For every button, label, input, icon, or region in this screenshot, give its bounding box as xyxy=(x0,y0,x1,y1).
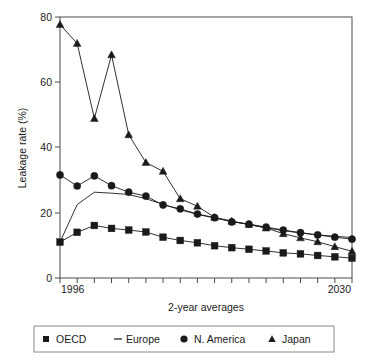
dash-marker xyxy=(114,338,122,339)
y-tick-label-80: 80 xyxy=(40,11,52,23)
data-point-circle xyxy=(194,210,201,217)
chart-figure: Leakage rate (%) 80 60 40 20 0 1996 2030… xyxy=(0,0,366,360)
data-point-square xyxy=(349,255,356,262)
data-point-square xyxy=(108,225,115,232)
data-point-square xyxy=(125,227,132,234)
legend-label-n-america: N. America xyxy=(194,333,246,345)
data-point-circle xyxy=(125,189,132,196)
data-point-circle xyxy=(142,193,149,200)
data-point-circle xyxy=(177,205,184,212)
data-point-square xyxy=(211,242,218,249)
leakage-rate-line-chart: Leakage rate (%) 80 60 40 20 0 1996 2030… xyxy=(0,0,366,360)
data-point-square xyxy=(246,246,253,253)
data-point-circle xyxy=(348,236,355,243)
data-point-circle xyxy=(108,182,115,189)
data-point-square xyxy=(331,253,338,260)
y-tick-label-40: 40 xyxy=(40,141,52,153)
data-point-square xyxy=(91,222,98,229)
data-point-square xyxy=(177,237,184,244)
data-point-square xyxy=(74,229,81,236)
y-tick-label-60: 60 xyxy=(40,76,52,88)
data-point-square xyxy=(194,239,201,246)
x-axis-title: 2-year averages xyxy=(168,301,244,313)
data-point-square xyxy=(297,250,304,257)
x-tick-label-last: 2030 xyxy=(328,283,352,295)
data-point-circle xyxy=(159,201,166,208)
data-point-circle xyxy=(56,171,63,178)
legend-label-oecd: OECD xyxy=(56,333,87,345)
x-tick-label-first: 1996 xyxy=(61,283,85,295)
data-point-square xyxy=(160,234,167,241)
legend-label-japan: Japan xyxy=(282,333,311,345)
legend-label-europe: Europe xyxy=(126,333,160,345)
square-marker xyxy=(43,336,49,342)
data-point-square xyxy=(263,248,270,255)
y-axis-title: Leakage rate (%) xyxy=(16,108,28,189)
circle-marker xyxy=(180,335,187,342)
data-point-circle xyxy=(91,172,98,179)
data-point-square xyxy=(142,229,149,236)
data-point-circle xyxy=(74,182,81,189)
data-point-circle xyxy=(331,234,338,241)
data-point-square xyxy=(228,244,235,251)
data-point-square xyxy=(314,252,321,259)
y-tick-label-0: 0 xyxy=(46,272,52,284)
y-tick-label-20: 20 xyxy=(40,207,52,219)
data-point-square xyxy=(280,249,287,256)
